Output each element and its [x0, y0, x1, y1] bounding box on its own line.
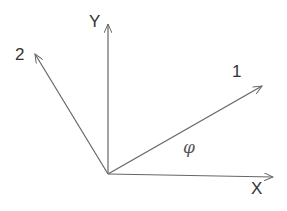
axes-diagram: Y X 1 2 φ: [0, 0, 287, 211]
axis-1-label: 1: [232, 62, 241, 81]
axis-1: [108, 86, 262, 174]
x-axis: [108, 174, 273, 177]
angle-phi-label: φ: [183, 137, 195, 157]
axis-2: [35, 54, 108, 174]
axis-2-label: 2: [15, 45, 24, 64]
x-axis-label: X: [251, 179, 262, 198]
y-axis-label: Y: [89, 12, 100, 31]
